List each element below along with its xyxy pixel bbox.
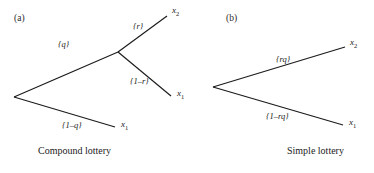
outcome-b-top: x2 xyxy=(350,38,357,47)
outcome-a-middle-subscript: 1 xyxy=(181,93,184,100)
outcome-a-middle: x1 xyxy=(177,89,184,98)
probability-label-1-minus-rq: {1–rq} xyxy=(266,112,289,121)
probability-label-q: {q} xyxy=(58,40,69,49)
outcome-b-bottom-subscript: 1 xyxy=(353,122,356,129)
caption-compound-lottery: Compound lottery xyxy=(38,146,111,156)
branch-a-upper-q xyxy=(14,52,118,97)
lottery-tree-figure: (a) {q} {1–q} {r} {1–r} x2 x1 x1 Compoun… xyxy=(0,0,374,173)
branch-b-upper-rq xyxy=(213,47,345,87)
branch-a-lower-1minusr xyxy=(118,52,171,96)
outcome-b-bottom: x1 xyxy=(349,118,356,127)
probability-label-1-minus-q: {1–q} xyxy=(62,121,82,130)
outcome-a-top: x2 xyxy=(172,6,179,15)
caption-simple-lottery: Simple lottery xyxy=(287,146,344,156)
probability-label-1-minus-r: {1–r} xyxy=(130,77,149,86)
probability-label-rq: {rq} xyxy=(276,55,290,64)
panel-tag-b: (b) xyxy=(226,14,237,24)
outcome-a-bottom: x1 xyxy=(121,120,128,129)
probability-label-r: {r} xyxy=(133,22,143,31)
outcome-b-top-subscript: 2 xyxy=(354,42,357,49)
panel-tag-a: (a) xyxy=(14,14,25,24)
outcome-a-top-subscript: 2 xyxy=(176,10,179,17)
outcome-a-bottom-subscript: 1 xyxy=(125,124,128,131)
